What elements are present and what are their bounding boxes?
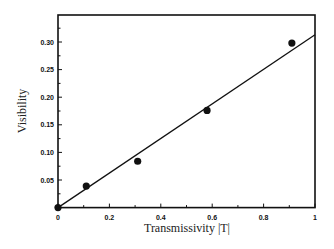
x-tick-label: 1: [313, 214, 317, 221]
y-tick-label: 0.15: [40, 121, 54, 128]
plot-border: [58, 15, 315, 208]
visibility-vs-transmissivity-chart: 00.20.40.60.810.050.100.150.200.250.30 T…: [0, 0, 334, 249]
x-tick-label: 0.4: [156, 214, 166, 221]
plot-frame: [58, 15, 315, 208]
x-tick-label: 0.6: [207, 214, 217, 221]
data-point: [288, 40, 295, 47]
data-point: [134, 158, 141, 165]
y-tick-label: 0.25: [40, 66, 54, 73]
x-tick-label: 0.2: [105, 214, 115, 221]
y-tick-label: 0.10: [40, 149, 54, 156]
axis-tick-labels: 00.20.40.60.810.050.100.150.200.250.30: [40, 39, 317, 221]
y-tick-label: 0.30: [40, 39, 54, 46]
data-series: [54, 35, 315, 211]
x-axis-title: Transmissivity |T|: [144, 221, 230, 235]
x-tick-label: 0.8: [259, 214, 269, 221]
y-tick-label: 0.20: [40, 94, 54, 101]
fit-line: [58, 35, 315, 208]
axis-ticks: [58, 28, 315, 207]
x-tick-label: 0: [56, 214, 60, 221]
y-axis-title: Visibility: [15, 89, 29, 134]
y-tick-label: 0.05: [40, 177, 54, 184]
